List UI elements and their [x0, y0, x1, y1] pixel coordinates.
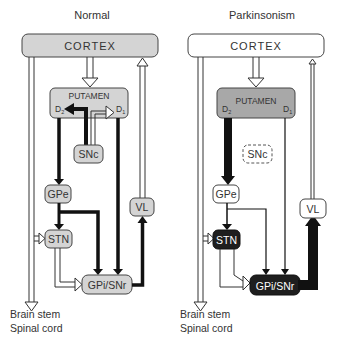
stn-to-gpi-arrow: [55, 248, 82, 291]
gpe-to-stn-arrow: [54, 203, 64, 230]
stn-to-gpi-arrow: [220, 249, 250, 290]
spinal-cord-label: Spinal cord: [180, 322, 233, 334]
vl-to-cortex-arrow: [309, 59, 316, 203]
snc-label: SNc: [248, 148, 268, 160]
putamen-to-gpe-arrow: [54, 118, 64, 185]
stn-label: STN: [216, 234, 237, 246]
snc-label: SNc: [79, 148, 99, 160]
snc-to-d2-arrow: [64, 103, 88, 145]
gpi-to-vl-arrow: [132, 216, 148, 285]
panel-parkinsonism: Parkinsonism CORTEX PUTAMEN D2 D1 SN: [180, 9, 326, 334]
panel-normal: Normal CORTEX PUTAMEN D2 D1: [10, 9, 158, 334]
spinal-cord-label: Spinal cord: [10, 322, 63, 334]
gpi-snr-label: GPi/SNr: [256, 280, 295, 292]
cortex-to-putamen-arrow: [82, 57, 98, 87]
gpe-label: GPe: [47, 188, 68, 200]
gpi-to-vl-arrow: [298, 215, 321, 290]
brain-stem-label: Brain stem: [180, 308, 230, 320]
gpe-to-stn-arrow: [222, 203, 232, 230]
panel-title: Parkinsonism: [229, 9, 295, 21]
brain-stem-label: Brain stem: [10, 308, 60, 320]
putamen-to-gpi-arrow: [113, 118, 123, 275]
cortex-to-stn-arrow: [34, 233, 45, 244]
vl-to-cortex-arrow: [137, 58, 148, 198]
gpe-label: GPe: [215, 188, 236, 200]
cortex-label: CORTEX: [64, 40, 116, 52]
putamen-to-gpi-arrow: [281, 118, 289, 275]
vl-label: VL: [307, 203, 320, 215]
putamen-to-gpe-arrow: [221, 118, 235, 185]
putamen-label: PUTAMEN: [236, 96, 277, 106]
putamen-label: PUTAMEN: [69, 91, 110, 101]
basal-ganglia-diagram: Normal CORTEX PUTAMEN D2 D1: [0, 0, 339, 347]
cortex-to-putamen-arrow: [248, 57, 264, 87]
vl-label: VL: [136, 201, 149, 213]
cortex-to-brainstem-arrow: [25, 57, 38, 311]
cortex-to-stn-arrow: [203, 233, 214, 244]
cortex-label: CORTEX: [230, 40, 282, 52]
gpi-snr-label: GPi/SNr: [88, 279, 127, 291]
cortex-to-brainstem-arrow: [194, 57, 207, 311]
stn-label: STN: [48, 233, 69, 245]
panel-title: Normal: [74, 9, 109, 21]
